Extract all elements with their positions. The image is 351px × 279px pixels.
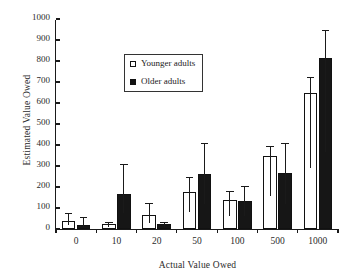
error-bar <box>325 30 326 153</box>
bar-chart-figure: Estimated Value Owed Actual Value Owed 0… <box>0 0 351 279</box>
bar-group <box>137 20 177 229</box>
error-bar-cap <box>120 164 128 165</box>
error-bar-cap <box>160 222 168 223</box>
error-bar-cap <box>241 186 249 187</box>
y-tick-label: 300 <box>37 159 51 169</box>
y-tick-label: 700 <box>37 75 51 85</box>
error-bar-cap <box>186 177 194 178</box>
error-bar <box>68 213 69 226</box>
legend-item: Older adults <box>130 77 195 86</box>
x-tick-mark <box>337 229 338 233</box>
legend-label-younger-adults: Younger adults <box>141 59 195 68</box>
x-tick-mark <box>96 229 97 233</box>
error-bar-cap <box>65 213 73 214</box>
error-bar-cap <box>322 30 330 31</box>
older-adults-swatch-icon <box>130 79 136 85</box>
error-bar <box>270 146 271 196</box>
y-tick-label: 400 <box>37 138 51 148</box>
y-tick-label: 500 <box>37 117 51 127</box>
bar-group <box>298 20 338 229</box>
error-bar-cap <box>226 191 234 192</box>
plot-area: 01002003004005006007008009001000 0102050… <box>55 20 337 230</box>
x-tick-mark <box>136 229 137 233</box>
error-bar-cap <box>105 222 113 223</box>
error-bar-cap <box>80 217 88 218</box>
x-tick-label: 1000 <box>288 236 348 246</box>
error-bar <box>189 177 190 213</box>
bar-group <box>177 20 217 229</box>
x-tick-mark <box>217 229 218 233</box>
error-bar <box>229 191 230 216</box>
error-bar <box>204 143 205 204</box>
x-tick-mark <box>176 229 177 233</box>
bar-group <box>56 20 96 229</box>
y-tick-label: 900 <box>37 33 51 43</box>
error-bar-cap <box>266 146 274 147</box>
error-bar-cap <box>201 143 209 144</box>
error-bar <box>123 164 124 214</box>
y-tick-label: 0 <box>46 222 51 232</box>
error-bar-cap <box>145 203 153 204</box>
bar-group <box>96 20 136 229</box>
error-bar <box>83 217 84 227</box>
error-bar <box>149 203 150 222</box>
error-bar <box>108 222 109 227</box>
error-bar-cap <box>307 77 315 78</box>
x-tick-mark <box>297 229 298 233</box>
bar-group <box>257 20 297 229</box>
error-bar <box>285 143 286 204</box>
y-tick-label: 200 <box>37 180 51 190</box>
x-axis-title: Actual Value Owed <box>55 260 340 270</box>
legend-item: Younger adults <box>130 59 195 68</box>
chart-legend: Younger adults Older adults <box>124 54 203 92</box>
y-tick-label: 600 <box>37 96 51 106</box>
bar-group <box>217 20 257 229</box>
y-tick-label: 100 <box>37 201 51 211</box>
younger-adults-swatch-icon <box>130 61 136 67</box>
error-bar-cap <box>281 143 289 144</box>
y-tick-label: 800 <box>37 54 51 64</box>
error-bar <box>164 222 165 227</box>
x-tick-mark <box>257 229 258 233</box>
y-tick-label: 1000 <box>32 12 50 22</box>
error-bar <box>310 77 311 168</box>
legend-label-older-adults: Older adults <box>141 77 185 86</box>
error-bar <box>244 186 245 216</box>
x-tick-mark <box>55 229 56 233</box>
y-axis-title: Estimated Value Owed <box>22 30 32 210</box>
